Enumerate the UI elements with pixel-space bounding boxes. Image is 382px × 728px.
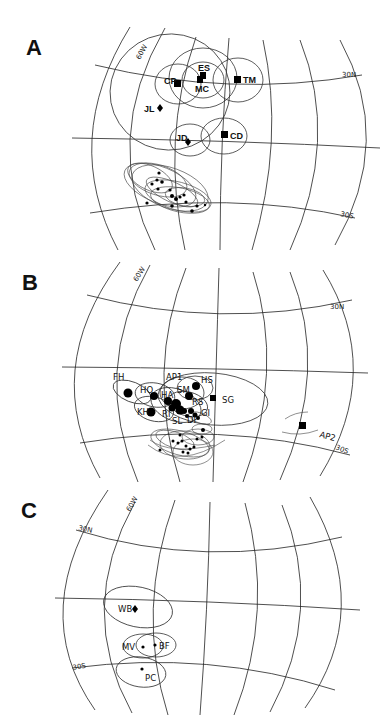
grid-label-60w: 60W (125, 495, 140, 513)
panel-a: A 60W 30N 30S (26, 24, 380, 250)
grid-label-30s: 30S (72, 662, 87, 672)
meridian (270, 505, 301, 712)
panel-c-labels: WB MV BF PC (118, 604, 170, 683)
label-tm: TM (243, 75, 256, 85)
marker-sg (210, 395, 216, 401)
label-fh: FH (113, 372, 124, 382)
label-kh: KH (137, 407, 149, 417)
marker-bf (153, 643, 156, 646)
panel-label-c: C (21, 498, 37, 523)
label-cp: CP (164, 76, 177, 86)
marker-jl (157, 104, 163, 112)
marker-mc (197, 76, 203, 83)
panel-c-graticule (55, 490, 360, 715)
meridian (234, 503, 258, 715)
parallel-30s (80, 434, 350, 455)
marker-mv (141, 645, 144, 648)
label-ha: HA (161, 390, 173, 400)
grid-label-30n: 30N (330, 303, 344, 311)
parallel-equator (72, 138, 380, 148)
label-gi: GI (201, 408, 210, 418)
label-rs: RS (192, 397, 203, 407)
marker-cd (221, 131, 228, 138)
panel-b-graticule (62, 262, 368, 482)
parallel-30n (87, 295, 352, 314)
panel-label-a: A (26, 35, 42, 60)
marker-rs (188, 408, 194, 414)
marker-tm (234, 76, 241, 83)
meridian (280, 272, 308, 480)
marker-ap2 (299, 422, 306, 429)
panel-c-ellipses (100, 580, 177, 690)
panel-a-ellipses (101, 24, 263, 220)
grid-label-60w: 60W (135, 43, 150, 61)
label-jl: JL (144, 104, 155, 114)
parallel-equator (55, 598, 360, 610)
label-bf: BF (159, 641, 170, 651)
marker-fh (124, 389, 133, 398)
label-jd: JD (176, 133, 188, 143)
panel-b: B 60W 30N 30S (22, 262, 368, 482)
label-sg: SG (222, 395, 234, 405)
marker-pc (140, 667, 143, 670)
label-es: ES (198, 63, 210, 73)
label-ri: RI (162, 409, 170, 419)
parallel-30n (95, 65, 362, 84)
label-hs: HS (201, 375, 213, 385)
meridian (243, 272, 267, 482)
paleomagnetic-pole-figure: A 60W 30N 30S (0, 0, 382, 728)
marker-wb (132, 605, 138, 613)
panel-c: C 60W 30N 30S WB (21, 490, 360, 715)
marker-hs (192, 382, 200, 390)
meridian (213, 268, 219, 482)
meridian (200, 502, 210, 715)
meridian (252, 40, 272, 250)
label-di: DI (187, 415, 196, 425)
ellipse-wb (100, 580, 177, 634)
label-mv: MV (122, 642, 135, 652)
panel-label-b: B (22, 270, 38, 295)
parallel-30s (90, 203, 355, 218)
meridian (63, 490, 108, 710)
label-ap1: AP1 (166, 372, 182, 382)
meridian (305, 497, 341, 708)
label-wb: WB (118, 604, 132, 614)
parallel-equator (62, 367, 368, 373)
label-sl: SL (172, 416, 182, 426)
grid-label-30n: 30N (78, 524, 94, 535)
meridian (74, 262, 120, 478)
label-ho: HO (140, 385, 153, 395)
label-mc: MC (195, 84, 209, 94)
grid-label-30s: 30S (340, 210, 355, 221)
label-sm: SM (177, 385, 190, 395)
grid-label-30n: 30N (342, 71, 356, 79)
label-pc: PC (145, 673, 156, 683)
meridian (220, 38, 229, 250)
label-cd: CD (230, 131, 243, 141)
label-ap2: AP2 (318, 429, 336, 443)
